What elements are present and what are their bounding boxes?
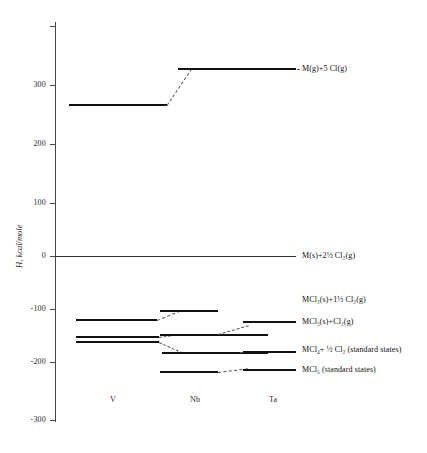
y-tick-100 [50,203,55,204]
y-axis-line [55,22,56,422]
level-line-ta-mg5clg [238,68,296,70]
connector-v-nb-mcl2 [157,311,180,321]
category-label-v: V [98,395,128,404]
level-label-mcl5: MCl₅ (standard states) [302,365,376,374]
y-tick-neg200 [50,362,55,363]
y-tick-label-100: 100 [14,198,46,207]
y-tick-label-neg100: -100 [8,304,46,313]
level-line-nb-mcl2 [160,310,218,312]
level-line-ta-mcl5 [243,369,296,371]
y-tick-200 [50,144,55,145]
level-label-mcl3: MCl₃(s)+Cl₂(g) [302,317,354,326]
level-line-zero-msc2l2g [55,256,296,257]
level-line-v-mg5clg [69,104,167,106]
y-tick-label-neg300: -300 [8,415,46,424]
level-label-mcl4: MCl₄+ ½ Cl₂ (standard states) [302,345,401,354]
y-tick-label-300: 300 [14,80,46,89]
level-line-ta-mcl4 [243,351,296,353]
y-tick-neg300 [50,420,55,421]
y-tick-400 [50,26,55,27]
level-line-nb-mcl3 [160,334,268,336]
level-line-v-mcl4 [76,341,159,343]
category-label-ta: Ta [258,395,288,404]
level-line-v-mcl2 [76,319,157,321]
level-line-ta-mcl3 [243,321,296,323]
level-line-nb-mcl5 [160,371,218,373]
level-label-mcl2: MCl₂(s)+1½ Cl₂(g) [302,295,366,304]
y-tick-label-neg200: -200 [8,357,46,366]
category-label-nb: Nb [180,395,210,404]
level-label-msc2l2g: M(s)+2½ Cl₂(g) [302,251,355,260]
y-tick-300 [50,85,55,86]
level-label-mg5clg: M(g)+5 Cl(g) [302,64,347,73]
connector-v-nb-mg5clg [167,69,192,106]
level-line-v-mcl3 [76,336,159,338]
y-tick-label-200: 200 [14,139,46,148]
y-axis-title: H, kcal/mole [14,225,24,268]
y-tick-neg100 [50,309,55,310]
energy-level-diagram: 300 200 100 0 -100 -200 -300 H, kcal/mol… [0,0,427,453]
